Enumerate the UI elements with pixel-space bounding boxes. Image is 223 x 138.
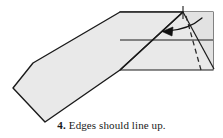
step-number: 4.: [57, 119, 65, 131]
origami-step-figure: 4.Edges should line up.: [0, 0, 223, 138]
caption-text: Edges should line up.: [69, 119, 166, 131]
figure-caption: 4.Edges should line up.: [0, 116, 223, 136]
